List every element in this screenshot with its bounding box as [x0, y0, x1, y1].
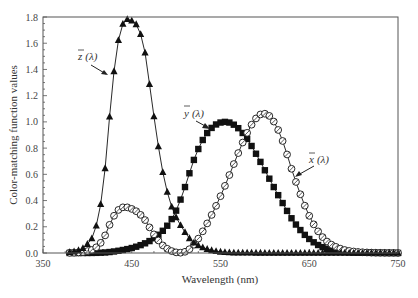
y-tick-label: 1.0	[26, 116, 39, 127]
data-point-square	[191, 157, 197, 163]
y-tick-label: 0.4	[26, 195, 39, 206]
series-filled-triangle	[66, 15, 402, 256]
x-tick-label: 750	[391, 258, 406, 269]
data-point-square	[195, 146, 201, 152]
annotation-x-bar: x(λ)	[295, 153, 329, 177]
data-point-square	[279, 200, 285, 206]
series-open-circle	[66, 110, 401, 256]
x-tick-label: 650	[302, 258, 317, 269]
data-point-square	[271, 184, 277, 190]
y-axis-title: Color-matching function values	[7, 65, 19, 205]
data-point-square	[182, 184, 188, 190]
data-point-triangle	[115, 36, 122, 43]
data-point-square	[266, 175, 272, 181]
data-point-triangle	[159, 168, 166, 175]
data-point-square	[253, 151, 259, 157]
series-line	[70, 19, 398, 253]
data-point-triangle	[150, 112, 157, 119]
y-tick-label: 1.2	[26, 90, 39, 101]
data-point-triangle	[102, 164, 109, 171]
data-point-triangle	[93, 222, 100, 229]
x-bar-label: x(λ)	[308, 153, 329, 166]
y-tick-label: 0.0	[26, 248, 39, 259]
z-bar-label: z(λ)	[77, 50, 98, 63]
data-point-triangle	[155, 142, 162, 149]
series-line	[70, 114, 398, 253]
data-point-triangle	[181, 228, 188, 235]
data-point-triangle	[164, 188, 171, 195]
arrowhead-icon	[101, 70, 108, 75]
y-tick-label: 0.8	[26, 143, 39, 154]
data-point-triangle	[168, 203, 175, 210]
data-point-triangle	[137, 30, 144, 37]
y-tick-label: 1.8	[26, 12, 39, 23]
data-point-triangle	[88, 235, 95, 242]
arrowhead-icon	[295, 171, 302, 177]
data-point-triangle	[97, 200, 104, 207]
data-point-triangle	[110, 67, 117, 74]
data-point-triangle	[106, 113, 113, 120]
y-tick-label: 1.6	[26, 38, 39, 49]
annotation-y-bar: y(λ)	[183, 106, 210, 129]
data-point-square	[257, 159, 263, 165]
data-point-square	[288, 215, 294, 221]
y-tick-label: 0.2	[26, 221, 39, 232]
data-point-triangle	[141, 49, 148, 56]
data-point-square	[275, 192, 281, 198]
data-point-square	[284, 208, 290, 214]
series-filled-square	[66, 119, 401, 257]
data-point-square	[186, 170, 192, 176]
y-tick-label: 1.4	[26, 64, 39, 75]
series-line	[70, 122, 398, 253]
data-point-triangle	[146, 80, 153, 87]
data-point-square	[164, 223, 170, 229]
y-axis-ticks: 0.00.20.40.60.81.01.21.41.61.8	[26, 12, 48, 259]
data-point-square	[293, 221, 299, 227]
y-tick-label: 0.6	[26, 169, 39, 180]
x-tick-label: 350	[36, 258, 51, 269]
data-point-triangle	[177, 221, 184, 228]
data-point-square	[262, 167, 268, 173]
x-tick-label: 550	[213, 258, 228, 269]
x-tick-label: 450	[124, 258, 139, 269]
data-point-square	[177, 196, 183, 202]
series-layer	[66, 15, 402, 256]
data-point-square	[200, 137, 206, 143]
color-matching-chart: 0.00.20.40.60.81.01.21.41.61.8 350450550…	[0, 0, 418, 298]
data-point-square	[248, 143, 254, 149]
y-bar-label: y(λ)	[183, 107, 204, 120]
annotation-z-bar: z(λ)	[77, 50, 108, 75]
x-axis-title: Wavelength (nm)	[182, 273, 259, 286]
